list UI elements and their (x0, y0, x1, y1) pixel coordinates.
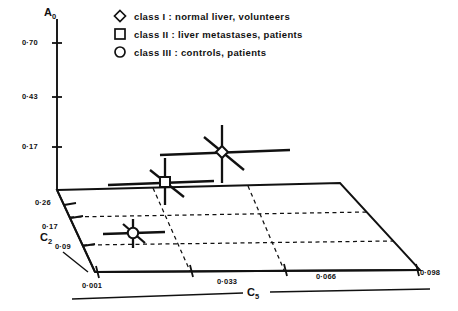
grid-line-depth-2 (83, 241, 394, 245)
axis-c2-tick-026 (64, 203, 76, 205)
grid-line-width-2 (248, 186, 284, 270)
legend-label-class-1: class I : normal liver, volunteers (134, 11, 290, 22)
axis-c5-name-rule-left (72, 293, 243, 299)
axis-c2-ticklabel-009: 0·09 (55, 242, 71, 251)
axis-c2-line (57, 190, 95, 272)
legend-item-class-1[interactable]: class I : normal liver, volunteers (112, 8, 303, 24)
axis-c2 (57, 190, 95, 272)
axis-a0-ticklabel-043: 0·43 (22, 92, 38, 101)
floor-outline (57, 183, 420, 272)
axis-c5-ticklabel-0001: 0·001 (82, 281, 102, 290)
axis-c2-leader (63, 252, 88, 272)
axis-c5-ticklabel-0098: 0·098 (420, 268, 440, 277)
floor-plane (57, 183, 420, 272)
axis-c5-name-rule-right (270, 289, 430, 292)
square-marker-icon (112, 26, 128, 42)
axis-c5-ticklabel-0066: 0·066 (316, 272, 336, 281)
axis-label-c2: C2 (40, 231, 52, 246)
axis-c2-tick-017 (71, 216, 83, 218)
square-marker-icon (160, 177, 170, 187)
axis-a0 (52, 19, 62, 190)
axis-c5-line (95, 270, 420, 272)
grid-line-depth-1 (70, 212, 367, 217)
axis-c2-ticklabel-017: 0·17 (42, 222, 58, 231)
diamond-marker-icon (112, 8, 128, 24)
legend-label-class-2: class II : liver metastases, patients (134, 29, 303, 40)
axis-a0-ticklabel-070: 0·70 (22, 38, 38, 47)
circle-marker-icon (112, 44, 128, 60)
axis-c2-tick-009 (83, 244, 95, 246)
axis-a0-ticklabel-017: 0·17 (22, 142, 38, 151)
circle-marker-icon (128, 228, 138, 238)
figure-root: class I : normal liver, volunteers class… (0, 0, 458, 311)
legend-label-class-3: class III : controls, patients (134, 47, 266, 58)
axis-label-c5: C5 (247, 286, 259, 301)
grid-line-width-1 (153, 188, 190, 271)
data-point-class-1[interactable] (160, 125, 290, 183)
legend: class I : normal liver, volunteers class… (112, 8, 303, 62)
legend-item-class-3[interactable]: class III : controls, patients (112, 44, 303, 60)
data-point-class-2[interactable] (108, 158, 214, 205)
axis-c5-ticklabel-0033: 0·033 (217, 277, 237, 286)
axis-label-a0: A0 (44, 6, 56, 21)
axis-c2-ticklabel-026: 0·26 (35, 198, 51, 207)
data-point-class-3[interactable] (103, 219, 165, 248)
floor-grid (70, 186, 394, 271)
legend-item-class-2[interactable]: class II : liver metastases, patients (112, 26, 303, 42)
